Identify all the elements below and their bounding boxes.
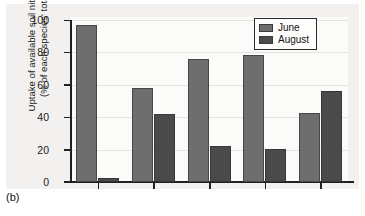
x-axis-tick bbox=[265, 183, 267, 189]
y-axis-tick-label: 0 bbox=[9, 177, 49, 188]
bar-june-group-3 bbox=[188, 59, 209, 182]
legend-item-june: June bbox=[259, 22, 309, 34]
x-axis-tick bbox=[153, 183, 155, 189]
bar-june-group-5 bbox=[299, 113, 320, 182]
legend-swatch-august bbox=[259, 36, 273, 44]
y-axis-tick-label: 20 bbox=[9, 145, 49, 156]
chart-legend: JuneAugust bbox=[254, 18, 317, 50]
bar-june-group-2 bbox=[132, 88, 153, 182]
x-axis-tick bbox=[98, 183, 100, 189]
x-axis-tick bbox=[320, 183, 322, 189]
legend-swatch-june bbox=[259, 24, 273, 32]
bar-august-group-1 bbox=[98, 178, 119, 182]
x-axis-tick bbox=[209, 183, 211, 189]
y-axis-title-line2: (% of each species' total) bbox=[37, 0, 49, 119]
figure-caption: (b) bbox=[6, 192, 19, 203]
bar-august-group-3 bbox=[210, 146, 231, 182]
y-axis-title-line1: Uptake of available soil nitrogen bbox=[26, 0, 38, 119]
figure-panel: 020406080100 Uptake of available soil ni… bbox=[6, 4, 359, 189]
legend-label: June bbox=[278, 23, 300, 33]
legend-label: August bbox=[278, 35, 309, 45]
bar-august-group-2 bbox=[154, 114, 175, 182]
legend-item-august: August bbox=[259, 34, 309, 46]
bar-june-group-1 bbox=[76, 25, 97, 182]
bar-august-group-4 bbox=[265, 149, 286, 182]
bar-june-group-4 bbox=[243, 55, 264, 182]
bar-august-group-5 bbox=[321, 91, 342, 182]
y-axis-title: Uptake of available soil nitrogen (% of … bbox=[26, 0, 49, 119]
